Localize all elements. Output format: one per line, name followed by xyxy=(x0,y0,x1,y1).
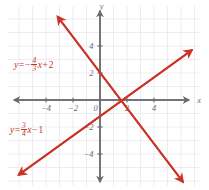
x-tick-label-neg4: −4 xyxy=(41,104,51,113)
coordinate-plane: −4 −2 2 4 4 2 −2 −4 0 x y xyxy=(0,0,209,190)
eq2-numerator: 3 xyxy=(21,122,27,130)
x-tick-label-4: 4 xyxy=(152,104,156,113)
eq2-fraction: 34 xyxy=(21,122,27,139)
grid-lines xyxy=(8,6,200,186)
eq1-numerator: 4 xyxy=(31,57,37,65)
x-tick-label-neg2: −2 xyxy=(68,104,78,113)
graph-figure: −4 −2 2 4 4 2 −2 −4 0 x y y=−43x+2 y=34x… xyxy=(0,0,209,190)
eq1-fraction: 43 xyxy=(31,57,37,74)
eq2-variable: x xyxy=(27,125,31,135)
y-tick-label-2: 2 xyxy=(89,69,93,78)
eq1-denominator: 3 xyxy=(31,64,37,73)
eq2-constant: 1 xyxy=(38,125,44,135)
equation-label-line1: y=−43x+2 xyxy=(14,57,54,74)
y-tick-label-4: 4 xyxy=(89,42,93,51)
eq2-operator: − xyxy=(32,125,38,135)
origin-label: 0 xyxy=(93,104,98,113)
eq1-sign: − xyxy=(25,60,31,70)
x-axis-label: x xyxy=(196,96,201,105)
y-tick-label-neg4: −4 xyxy=(84,150,94,159)
eq1-equals: = xyxy=(18,60,24,70)
eq2-denominator: 4 xyxy=(21,129,27,138)
y-axis-label: y xyxy=(99,2,104,11)
eq2-equals: = xyxy=(14,125,20,135)
eq1-constant: 2 xyxy=(48,60,54,70)
equation-label-line2: y=34x−1 xyxy=(10,122,44,139)
